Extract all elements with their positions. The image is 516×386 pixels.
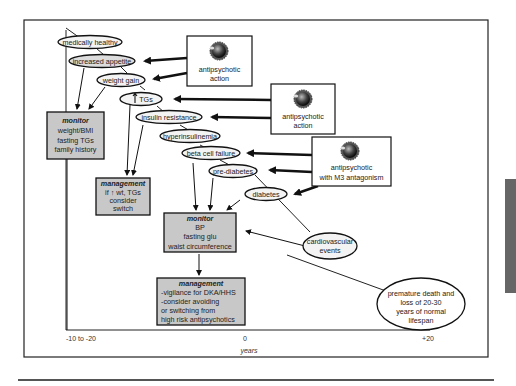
svg-text:weight gain: weight gain — [102, 76, 139, 85]
arrow-weight-to-monitor — [89, 87, 105, 109]
svg-text:diabetes: diabetes — [252, 190, 280, 199]
svg-text:waist circumference: waist circumference — [167, 242, 232, 251]
node-hyperinsulinemia: hyperinsulinemia — [160, 130, 220, 143]
arrow-diabetes-to-monitor — [227, 200, 240, 210]
arrow-appetite-to-monitor — [77, 68, 84, 109]
svg-text:hyperinsulinemia: hyperinsulinemia — [163, 132, 217, 141]
drug-box-3: antipsychotic with M3 antagonism — [312, 137, 391, 186]
svg-text:antipsychotic: antipsychotic — [199, 65, 241, 74]
node-weight-gain: weight gain — [97, 74, 145, 87]
svg-text:monitor: monitor — [187, 214, 215, 223]
svg-text:management: management — [179, 279, 224, 288]
svg-text:or switching from: or switching from — [161, 306, 215, 315]
arrow-beta-to-monitor — [193, 163, 196, 210]
node-tgs: TGs — [120, 93, 162, 106]
node-pre-diabetes: pre-diabetes — [209, 165, 257, 178]
drug3-arrow-prediabetes — [270, 170, 312, 172]
svg-text:switch: switch — [113, 204, 133, 213]
svg-text:fasting TGs: fasting TGs — [57, 136, 94, 145]
svg-text:lifespan: lifespan — [409, 316, 434, 325]
node-beta-cell-failure: beta cell failure — [182, 147, 240, 160]
drug3-arrow-diabetes — [295, 186, 318, 194]
monitor-box-1: monitor weight/BMI fasting TGs family hi… — [47, 112, 104, 159]
management-box-1: management if ↑ wt, TGs consider switch — [96, 178, 150, 215]
drug3-arrow-beta — [248, 153, 312, 155]
svg-text:increased appetite: increased appetite — [73, 57, 132, 66]
x-axis-right-label: +20 — [422, 335, 434, 342]
drug-box-2: antipsychotic action — [271, 84, 335, 134]
svg-text:weight/BMI: weight/BMI — [57, 126, 94, 135]
node-cardiovascular-events: cardiovascular events — [303, 233, 357, 259]
svg-text:high risk antipsychotics: high risk antipsychotics — [161, 315, 235, 324]
x-axis-left-label: -10 to -20 — [66, 335, 96, 342]
svg-text:premature death and: premature death and — [388, 289, 455, 298]
drug2-arrow-insulin — [212, 117, 271, 118]
svg-text:with M3 antagonism: with M3 antagonism — [319, 173, 384, 182]
arrow-insulin-to-management — [133, 125, 143, 175]
svg-text:events: events — [319, 246, 341, 255]
svg-text:medically healthy: medically healthy — [62, 38, 118, 47]
svg-text:antipsychotic: antipsychotic — [282, 112, 324, 121]
svg-text:management: management — [101, 179, 146, 188]
monitor-box-2: monitor BP fasting glu waist circumferen… — [164, 213, 236, 252]
node-insulin-resistance: insulin resistance — [136, 111, 202, 124]
diagram-canvas: -10 to -20 0 +20 years — [0, 0, 516, 386]
drug2-arrow-tgs — [175, 99, 271, 100]
management-box-2: management -vigilance for DKA/HHS -consi… — [157, 278, 245, 325]
node-diabetes: diabetes — [245, 188, 287, 201]
svg-text:pre-diabetes: pre-diabetes — [213, 167, 253, 176]
svg-text:fasting glu: fasting glu — [184, 232, 217, 241]
svg-text:-vigilance for DKA/HHS: -vigilance for DKA/HHS — [161, 288, 236, 297]
x-axis-center-label: 0 — [243, 335, 247, 342]
arrow-cv-to-monitor — [246, 231, 305, 246]
svg-text:antipsychotic: antipsychotic — [331, 163, 373, 172]
svg-text:action: action — [210, 74, 229, 83]
node-medically-healthy: medically healthy — [58, 36, 122, 49]
svg-text:insulin resistance: insulin resistance — [141, 113, 196, 122]
node-increased-appetite: increased appetite — [69, 55, 135, 68]
drug1-arrow-appetite — [145, 58, 187, 61]
x-axis-title: years — [239, 347, 258, 355]
node-premature-death: premature death and loss of 20-30 years … — [377, 278, 465, 330]
svg-text:loss of 20-30: loss of 20-30 — [400, 298, 441, 307]
svg-text:years of normal: years of normal — [396, 307, 446, 316]
drug-box-1: antipsychotic action — [187, 36, 252, 86]
svg-text:monitor: monitor — [62, 116, 90, 125]
arrow-tgs-to-management — [127, 105, 130, 175]
svg-text:BP: BP — [195, 223, 205, 232]
svg-text:TGs: TGs — [139, 95, 153, 104]
svg-text:action: action — [293, 121, 312, 130]
svg-text:beta cell failure: beta cell failure — [187, 149, 235, 158]
drug1-arrow-weight — [154, 73, 187, 79]
svg-text:-consider avoiding: -consider avoiding — [161, 297, 219, 306]
arrow-prediabetes-to-monitor — [210, 178, 213, 210]
svg-text:family history: family history — [55, 145, 97, 154]
side-tab — [505, 179, 516, 293]
